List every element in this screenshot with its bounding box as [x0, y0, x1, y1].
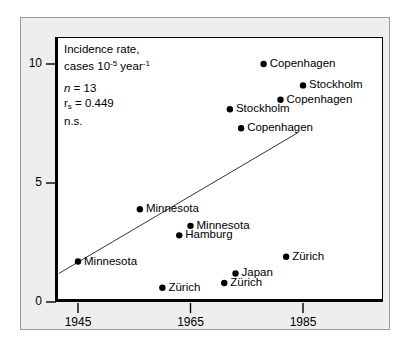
annotation-block: Incidence rate, cases 10-5 year-1 n = 13… [64, 42, 150, 129]
data-point-label: Hamburg [185, 228, 232, 240]
y-tick-label-10: 10 [16, 56, 42, 70]
r-value: = 0.449 [75, 97, 114, 109]
data-point-label: Zürich [230, 276, 262, 288]
significance-line: n.s. [64, 114, 150, 129]
r-subscript: s [68, 102, 72, 111]
x-tick-label-1965: 1965 [166, 315, 216, 329]
data-point-label: Stockholm [309, 78, 363, 90]
data-point-label: Minnesota [84, 255, 137, 267]
data-point-label: Copenhagen [287, 93, 353, 105]
annotation-spacer [64, 73, 150, 81]
y-tick-label-0: 0 [16, 294, 42, 308]
sample-size-line: n = 13 [64, 81, 150, 96]
axis-caption-exponent-2: -1 [143, 59, 150, 68]
n-value: = 13 [74, 82, 97, 94]
axis-caption-prefix: cases 10 [64, 60, 110, 72]
x-tick-label-1985: 1985 [278, 315, 328, 329]
data-point-label: Minnesota [146, 202, 199, 214]
data-point-label: Copenhagen [270, 57, 336, 69]
scatter-plot-figure: Incidence rate, cases 10-5 year-1 n = 13… [0, 0, 410, 349]
axis-caption-line-2: cases 10-5 year-1 [64, 57, 150, 74]
data-point-label: Copenhagen [247, 121, 313, 133]
correlation-line: rs = 0.449 [64, 96, 150, 115]
axis-caption-line-1: Incidence rate, [64, 42, 150, 57]
data-point-label: Zürich [168, 281, 200, 293]
n-symbol: n [64, 82, 70, 94]
data-point-label: Stockholm [236, 102, 290, 114]
axis-caption-mid: year [117, 60, 143, 72]
y-tick-label-5: 5 [16, 175, 42, 189]
x-tick-label-1945: 1945 [53, 315, 103, 329]
data-point-label: Zürich [292, 250, 324, 262]
